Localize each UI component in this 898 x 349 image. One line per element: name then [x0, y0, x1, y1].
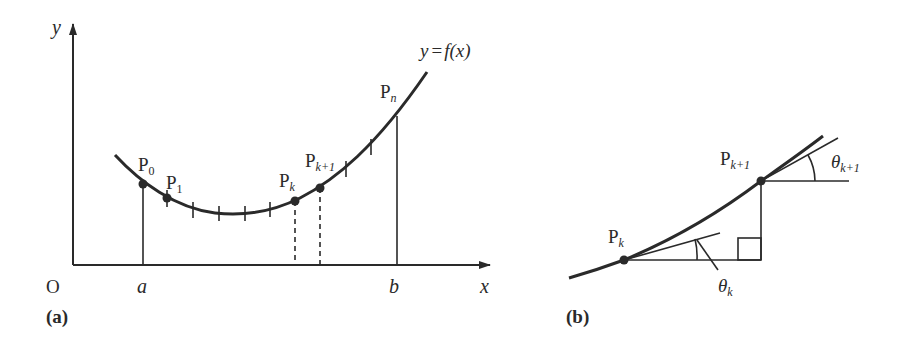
- point-pk: [291, 197, 300, 206]
- point-pk-b: [620, 256, 629, 265]
- curve-segment: [569, 136, 823, 278]
- arc-length-diagram: y x O a b P0 P1: [0, 0, 898, 349]
- label-pn: Pn: [380, 81, 397, 105]
- angle-arc-theta-k: [695, 239, 697, 260]
- label-pk1-b: Pk+1: [720, 148, 750, 172]
- curve-label: y=f(x): [418, 40, 471, 62]
- b-label: b: [389, 275, 399, 297]
- point-pk1: [316, 184, 325, 193]
- label-p1: P1: [166, 172, 183, 196]
- tangent-pk1: [761, 138, 838, 181]
- panel-a: y x O a b P0 P1: [46, 16, 490, 328]
- label-pk1: Pk+1: [305, 150, 335, 174]
- a-label: a: [137, 275, 147, 297]
- y-axis-label: y: [50, 16, 61, 39]
- panel-b: Pk Pk+1 θk θk+1 (b): [566, 136, 860, 328]
- panel-b-label: (b): [566, 306, 589, 328]
- point-pk1-b: [757, 177, 766, 186]
- label-theta-k: θk: [718, 275, 733, 299]
- point-p0: [139, 180, 148, 189]
- label-p0: P0: [138, 154, 155, 178]
- label-theta-k1: θk+1: [831, 151, 860, 175]
- label-pk: Pk: [279, 170, 296, 194]
- origin-label: O: [46, 276, 60, 297]
- panel-a-label: (a): [46, 306, 68, 328]
- point-p1: [163, 194, 172, 203]
- angle-arc-theta-k1: [808, 155, 815, 181]
- right-angle-marker: [738, 238, 761, 260]
- label-pk-b: Pk: [608, 226, 625, 250]
- x-axis-label: x: [479, 275, 489, 297]
- theta-k-leader: [697, 240, 718, 270]
